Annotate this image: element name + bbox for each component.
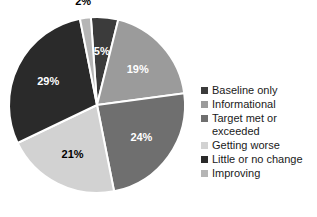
legend-swatch-icon bbox=[201, 115, 208, 122]
pie-slice-label: 2% bbox=[75, 0, 91, 7]
legend-item-label: Improving bbox=[212, 167, 260, 180]
legend-item-label: Baseline only bbox=[212, 84, 277, 97]
legend-swatch-icon bbox=[201, 87, 208, 94]
legend-swatch-icon bbox=[201, 142, 208, 149]
legend-swatch-icon bbox=[201, 170, 208, 177]
legend-swatch-icon bbox=[201, 156, 208, 163]
pie-chart: 5%19%24%21%29%2% Baseline onlyInformatio… bbox=[0, 0, 317, 217]
legend-item[interactable]: Informational bbox=[201, 98, 317, 111]
legend-item[interactable]: Improving bbox=[201, 167, 317, 180]
pie-slice-label: 29% bbox=[37, 75, 59, 87]
legend-item-label: Informational bbox=[212, 98, 276, 111]
pie-slice-label: 21% bbox=[62, 148, 84, 160]
legend-item[interactable]: Little or no change bbox=[201, 153, 317, 166]
pie-slice-label: 24% bbox=[130, 131, 152, 143]
legend-item[interactable]: Baseline only bbox=[201, 84, 317, 97]
legend-swatch-icon bbox=[201, 101, 208, 108]
legend-item-label: Getting worse bbox=[212, 139, 280, 152]
legend-item[interactable]: Target met or exceeded bbox=[201, 112, 317, 138]
legend-item[interactable]: Getting worse bbox=[201, 139, 317, 152]
pie-slice-label: 19% bbox=[127, 63, 149, 75]
legend-item-label: Target met or exceeded bbox=[212, 112, 277, 138]
pie-slice-label: 5% bbox=[94, 45, 110, 57]
chart-legend: Baseline onlyInformationalTarget met or … bbox=[201, 84, 317, 181]
legend-item-label: Little or no change bbox=[212, 153, 303, 166]
